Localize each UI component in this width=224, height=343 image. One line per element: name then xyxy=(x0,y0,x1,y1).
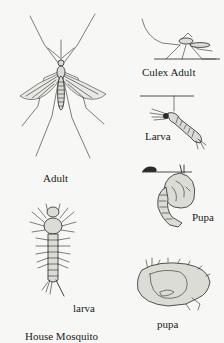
label-larva-hanging: Larva xyxy=(145,130,171,142)
culex-adult-illustration xyxy=(140,15,224,63)
larva-topview-illustration xyxy=(28,200,78,300)
label-pupa-side: pupa xyxy=(157,318,178,330)
label-culex-adult: Culex Adult xyxy=(142,66,195,78)
label-pupa-surface: Pupa xyxy=(192,211,214,223)
diagram-title: House Mosquito xyxy=(25,330,98,342)
label-larva-topview: larva xyxy=(73,302,95,314)
pupa-side-illustration xyxy=(128,254,220,312)
larva-hanging-illustration xyxy=(140,93,224,151)
label-adult: Adult xyxy=(43,172,68,184)
adult-mosquito-illustration xyxy=(8,6,112,166)
